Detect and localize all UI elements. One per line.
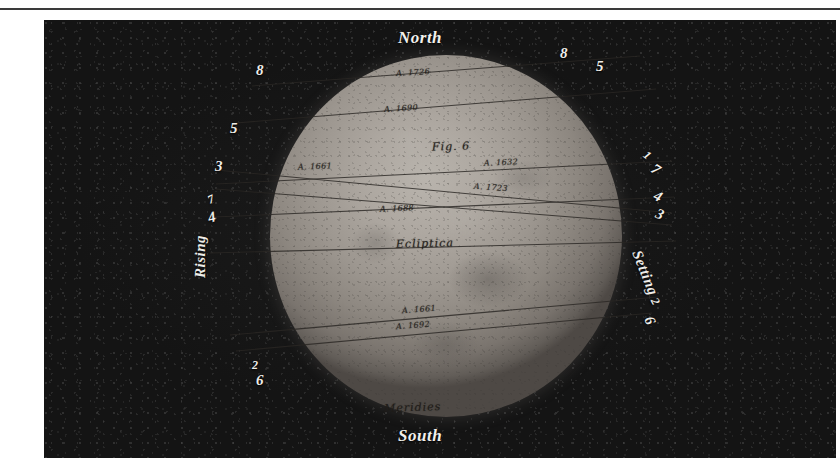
path-a1690: [236, 89, 656, 123]
plate-canvas: A. 1726 A. 1690 Fig. 6 A. 1661 A. 1632 A…: [0, 0, 840, 466]
ink-label-a1632: A. 1632: [484, 157, 518, 167]
ink-label-a1726: A. 1726: [396, 67, 430, 78]
path-a1661-lower: [230, 297, 658, 335]
path-a1726: [252, 56, 640, 86]
limb-numeral-upper-right-5: 5: [596, 58, 604, 75]
cardinal-label-north: North: [398, 28, 442, 48]
top-rule-divider: [0, 8, 840, 10]
limb-numeral-lower-left-2: 2: [252, 358, 258, 373]
path-a1692: [236, 313, 652, 351]
ink-figure-caption: Fig. 6: [432, 140, 471, 154]
limb-numeral-upper-right-8: 8: [560, 45, 568, 62]
limb-numeral-lower-left-6: 6: [256, 372, 264, 389]
side-label-rising: Rising: [192, 235, 209, 278]
cardinal-label-south: South: [398, 426, 442, 446]
photographic-field: A. 1726 A. 1690 Fig. 6 A. 1661 A. 1632 A…: [44, 20, 836, 458]
limb-numeral-upper-left-5: 5: [230, 120, 238, 137]
limb-numeral-upper-left-8: 8: [256, 62, 264, 79]
ink-label-meridies: Meridies: [384, 400, 442, 415]
ink-label-a1688: A. 1688: [380, 203, 414, 213]
ink-label-ecliptica: Ecliptica: [396, 236, 454, 250]
ink-label-a1661-upper: A. 1661: [298, 161, 332, 171]
path-a1661-upper: [216, 161, 672, 184]
limb-numeral-left-3: 3: [215, 158, 223, 175]
